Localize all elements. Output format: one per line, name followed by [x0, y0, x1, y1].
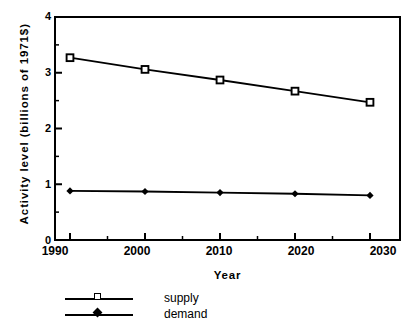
filled-diamond-icon	[94, 309, 101, 316]
data-point-open-square	[142, 66, 149, 73]
data-point-open-square	[67, 54, 74, 61]
legend-item-supply[interactable]: supply	[60, 291, 310, 307]
data-point-filled-diamond	[291, 190, 298, 197]
data-point-open-square	[367, 99, 374, 106]
plot-area	[0, 0, 417, 331]
chart-legend: supply demand	[60, 291, 310, 323]
axis-ticks	[55, 17, 370, 240]
legend-item-demand[interactable]: demand	[60, 307, 310, 323]
series-demand	[66, 187, 373, 199]
plot-box-border	[55, 17, 400, 240]
data-series	[66, 54, 373, 199]
open-square-icon	[94, 293, 101, 300]
series-supply	[67, 54, 374, 105]
data-point-filled-diamond	[141, 188, 148, 195]
data-point-filled-diamond	[366, 192, 373, 199]
data-point-open-square	[292, 88, 299, 95]
data-point-filled-diamond	[66, 187, 73, 194]
data-point-open-square	[217, 77, 224, 84]
data-point-filled-diamond	[216, 189, 223, 196]
legend-label-supply: supply	[164, 291, 199, 306]
plot-frame	[55, 17, 400, 240]
legend-label-demand: demand	[164, 307, 207, 322]
chart-figure: Activity level (billions of 1971$) Year …	[0, 0, 417, 331]
